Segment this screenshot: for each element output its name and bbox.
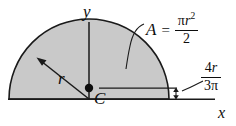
y-axis-label: y xyxy=(83,3,91,20)
centroid-label: C xyxy=(94,90,105,107)
centroid-distance-label: 4r 3π xyxy=(201,61,221,93)
semicircle-centroid-figure: y x r C A = πr2 2 4r 3π xyxy=(0,0,236,126)
centroid-distance-denominator-coefficient: 3 xyxy=(204,78,211,93)
centroid-distance-fraction: 4r 3π xyxy=(201,61,221,93)
centroid-distance-pi-symbol: π xyxy=(211,78,218,93)
area-equals-sign: = xyxy=(161,22,169,39)
centroid-distance-numerator-variable: r xyxy=(212,60,217,75)
area-symbol: A xyxy=(146,20,156,40)
area-exponent: 2 xyxy=(190,11,195,21)
area-pi-symbol: π xyxy=(178,13,185,28)
area-formula: A = πr2 2 xyxy=(146,14,198,46)
centroid-distance-leader-line xyxy=(182,81,203,91)
x-axis-label: x xyxy=(218,105,225,121)
area-denominator: 2 xyxy=(175,30,198,47)
centroid-distance-denominator: 3π xyxy=(201,77,221,94)
centroid-distance-numerator-coefficient: 4 xyxy=(205,60,212,75)
centroid-point-marker xyxy=(85,84,93,92)
centroid-distance-numerator: 4r xyxy=(202,61,220,77)
radius-label: r xyxy=(58,70,65,87)
area-fraction: πr2 2 xyxy=(175,14,198,46)
area-numerator: πr2 xyxy=(175,14,198,30)
